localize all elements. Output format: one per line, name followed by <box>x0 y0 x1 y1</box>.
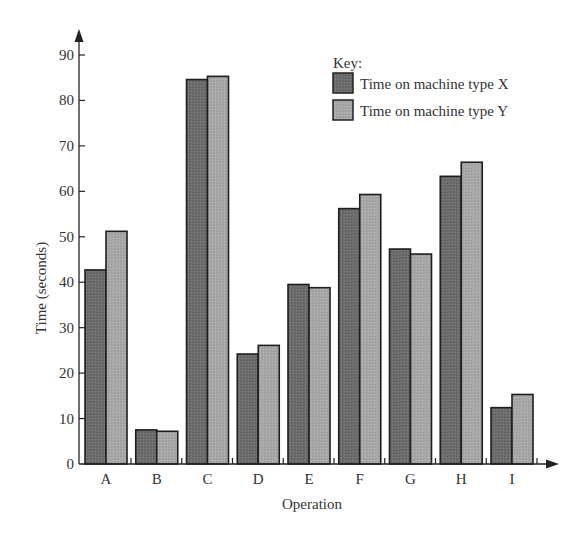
y-axis-title: Time (seconds) <box>33 242 50 334</box>
y-tick-label: 50 <box>59 229 74 245</box>
legend: Key: Time on machine type X Time on mach… <box>333 55 509 120</box>
chart-canvas: 0102030405060708090 ABCDEFGHI Operation … <box>0 0 584 542</box>
bar-d-x <box>237 354 258 464</box>
x-tick-label: B <box>152 471 162 487</box>
bar-g-x <box>390 249 411 464</box>
y-tick-label: 20 <box>59 365 74 381</box>
y-tick-label: 40 <box>59 274 74 290</box>
bar-a-y <box>106 231 127 464</box>
x-tick-label: C <box>202 471 212 487</box>
bar-i-x <box>491 408 512 464</box>
bar-b-y <box>157 431 178 464</box>
bar-b-x <box>136 430 157 464</box>
bar-f-y <box>360 195 381 464</box>
bar-i-y <box>512 394 533 464</box>
bars-group <box>85 76 533 464</box>
x-axis-title: Operation <box>282 496 342 512</box>
bar-h-x <box>440 176 461 464</box>
y-tick-label: 0 <box>67 456 75 472</box>
x-tick-label: G <box>405 471 416 487</box>
bar-g-y <box>411 254 432 464</box>
y-axis-ticks: 0102030405060708090 <box>59 47 85 472</box>
x-axis-category-labels: ABCDEFGHI <box>101 471 515 487</box>
bar-h-y <box>461 162 482 464</box>
legend-label-x: Time on machine type X <box>360 76 509 92</box>
bar-chart: 0102030405060708090 ABCDEFGHI Operation … <box>0 0 584 542</box>
y-tick-label: 10 <box>59 411 74 427</box>
y-tick-label: 30 <box>59 320 74 336</box>
bar-e-y <box>309 288 330 464</box>
bar-f-x <box>339 209 360 464</box>
x-tick-label: E <box>304 471 313 487</box>
x-tick-label: F <box>356 471 364 487</box>
y-tick-label: 90 <box>59 47 74 63</box>
bar-a-x <box>85 270 106 464</box>
y-axis-arrow-icon <box>75 29 84 42</box>
y-tick-label: 80 <box>59 92 74 108</box>
bar-e-x <box>288 284 309 464</box>
legend-label-y: Time on machine type Y <box>360 103 508 119</box>
x-tick-label: A <box>101 471 112 487</box>
x-tick-label: D <box>253 471 264 487</box>
y-tick-label: 60 <box>59 183 74 199</box>
legend-swatch-y <box>333 100 353 120</box>
bar-c-x <box>187 80 208 464</box>
x-tick-label: H <box>456 471 467 487</box>
legend-swatch-x <box>333 73 353 93</box>
x-axis-arrow-icon <box>546 460 559 469</box>
x-tick-label: I <box>510 471 515 487</box>
y-tick-label: 70 <box>59 138 74 154</box>
bar-c-y <box>208 76 229 464</box>
bar-d-y <box>258 345 279 464</box>
legend-title: Key: <box>333 55 362 71</box>
